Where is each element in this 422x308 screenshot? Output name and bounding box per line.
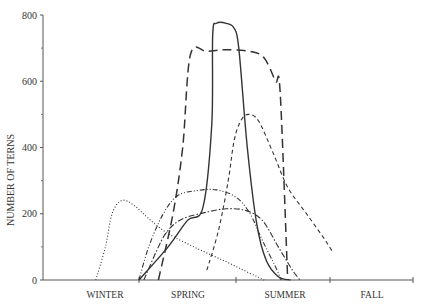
series-solid-line: [139, 22, 291, 280]
tern-population-chart: 0200400600800 WINTERSPRINGSUMMERFALL NUM…: [0, 0, 422, 308]
y-tick-label: 200: [22, 208, 37, 219]
series-long-dash-line: [158, 47, 287, 280]
y-tick-label: 0: [32, 275, 37, 286]
x-season-label: FALL: [360, 290, 383, 300]
y-axis: 0200400600800: [22, 10, 43, 286]
x-axis: WINTERSPRINGSUMMERFALL: [43, 277, 413, 300]
series-lines: [96, 22, 333, 280]
series-dash-dot-dot-line: [139, 189, 281, 280]
x-season-label: WINTER: [87, 290, 125, 300]
y-axis-label: NUMBER OF TERNS: [5, 134, 16, 226]
x-season-label: SUMMER: [264, 290, 306, 300]
y-tick-label: 400: [22, 142, 37, 153]
x-season-label: SPRING: [171, 290, 205, 300]
y-tick-label: 600: [22, 76, 37, 87]
series-dotted-line: [96, 200, 264, 280]
y-tick-label: 800: [22, 10, 37, 21]
